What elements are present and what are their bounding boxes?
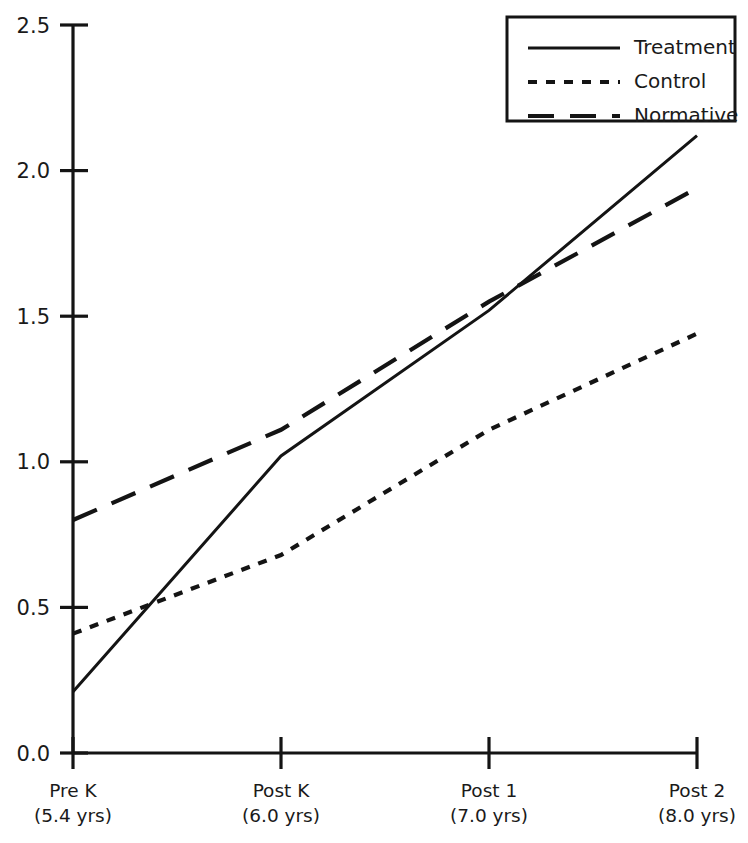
legend-label-normative: Normative (634, 103, 738, 127)
series-line-control (73, 334, 697, 634)
y-tick-label: 0.5 (17, 596, 50, 620)
x-tick-sublabel: (6.0 yrs) (242, 805, 320, 826)
y-tick-label: 2.0 (17, 159, 50, 183)
y-axis-ticks: 0.00.51.01.52.02.5 (17, 14, 88, 766)
y-tick-label: 1.5 (17, 305, 50, 329)
series-line-treatment (73, 136, 697, 692)
line-chart: 0.00.51.01.52.02.5 Pre K(5.4 yrs)Post K(… (0, 0, 748, 843)
legend-label-treatment: Treatment (633, 35, 736, 59)
x-tick-label: Post K (253, 780, 311, 801)
plot-area: 0.00.51.01.52.02.5 Pre K(5.4 yrs)Post K(… (0, 0, 748, 843)
x-tick-label: Pre K (49, 780, 97, 801)
y-tick-label: 0.0 (17, 742, 50, 766)
x-tick-label: Post 1 (461, 780, 517, 801)
legend-label-control: Control (634, 69, 706, 93)
x-tick-sublabel: (7.0 yrs) (450, 805, 528, 826)
legend: TreatmentControlNormative (507, 17, 738, 127)
y-tick-label: 2.5 (17, 14, 50, 38)
x-tick-sublabel: (8.0 yrs) (658, 805, 736, 826)
data-series-group (73, 136, 697, 692)
x-tick-label: Post 2 (669, 780, 725, 801)
x-tick-sublabel: (5.4 yrs) (34, 805, 112, 826)
y-tick-label: 1.0 (17, 450, 50, 474)
x-axis-ticks: Pre K(5.4 yrs)Post K(6.0 yrs)Post 1(7.0 … (34, 737, 736, 826)
series-line-normative (73, 188, 697, 520)
